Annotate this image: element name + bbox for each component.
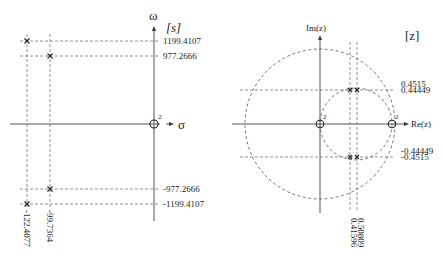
im-arrow-icon bbox=[318, 35, 322, 40]
imag-label: -977.2666 bbox=[163, 184, 200, 194]
sigma-arrow-icon bbox=[169, 122, 174, 126]
s-plane: ω σ [s] 2 1199.4107 977.2666 -977.2666 -… bbox=[10, 8, 204, 247]
pole-zero-diagram: ω σ [s] 2 1199.4107 977.2666 -977.2666 -… bbox=[0, 0, 443, 262]
real-label: 0.41596 bbox=[349, 218, 359, 248]
real-label: -122.4077 bbox=[22, 210, 32, 247]
real-label: -99.7364 bbox=[45, 210, 55, 243]
omega-axis-label: ω bbox=[149, 8, 158, 23]
zero-multiplicity: 2 bbox=[395, 113, 399, 121]
imag-label: 0.44449 bbox=[401, 85, 431, 95]
omega-arrow-icon bbox=[152, 26, 156, 31]
zero-multiplicity: 2 bbox=[323, 113, 327, 121]
imag-label: -0.4515 bbox=[401, 152, 429, 162]
imag-label: 1199.4107 bbox=[163, 36, 201, 46]
z-plane: Im(z) Re(z) [z] 2 2 0.4515 0.44449 -0.44… bbox=[232, 23, 434, 248]
imag-label: 977.2666 bbox=[163, 51, 197, 61]
zero-multiplicity: 2 bbox=[158, 113, 162, 121]
z-plane-label: [z] bbox=[405, 28, 419, 43]
re-axis-label: Re(z) bbox=[411, 119, 431, 129]
sigma-axis-label: σ bbox=[178, 117, 185, 132]
s-plane-label: [s] bbox=[166, 20, 181, 35]
im-axis-label: Im(z) bbox=[306, 23, 326, 33]
imag-label: -1199.4107 bbox=[163, 199, 204, 209]
re-arrow-icon bbox=[404, 122, 409, 126]
